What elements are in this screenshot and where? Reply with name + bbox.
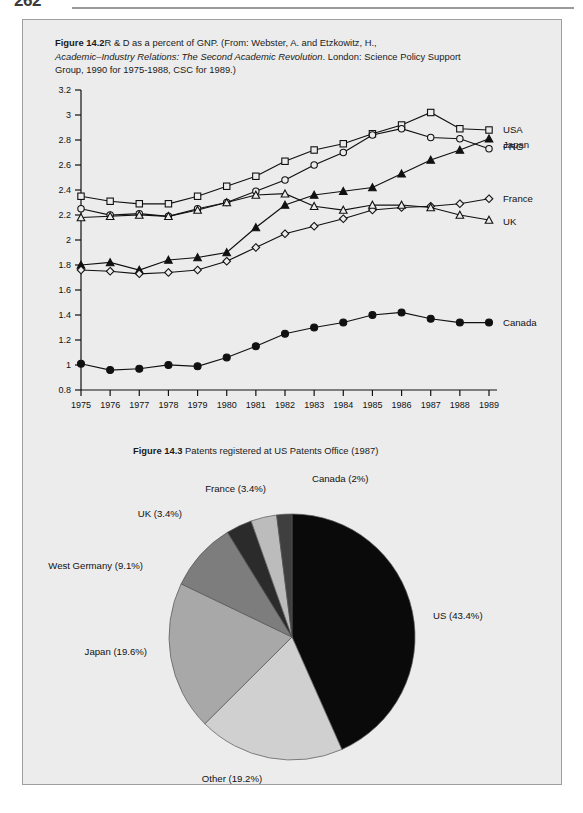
y-axis-tick-label: 1.4	[58, 310, 71, 320]
data-point-marker	[340, 149, 346, 155]
figure-14-2-caption-italic: Academic–Industry Relations: The Second …	[55, 51, 323, 62]
data-point-marker	[339, 215, 347, 223]
data-point-marker	[428, 134, 434, 140]
series-label-frg: FRG	[503, 141, 523, 152]
x-axis-tick-label: 1987	[421, 400, 441, 410]
pie-label-france: France (3.4%)	[205, 483, 266, 494]
pie-label-uk: UK (3.4%)	[138, 508, 182, 519]
x-axis-tick-label: 1975	[71, 400, 91, 410]
y-axis-tick-label: 1.2	[58, 335, 71, 345]
data-point-marker	[456, 146, 464, 153]
x-axis-tick-label: 1983	[304, 400, 324, 410]
y-axis-tick-label: 1.8	[58, 260, 71, 270]
data-point-marker	[136, 201, 142, 207]
data-point-marker	[486, 146, 492, 152]
figure-14-2-caption-tail: . London: Science Policy Support	[323, 51, 461, 62]
series-uk: UK	[77, 190, 517, 227]
data-point-marker	[340, 319, 347, 326]
data-point-marker	[311, 162, 317, 168]
figure-14-2-caption-line3: Group, 1990 for 1975-1988, CSC for 1989.…	[55, 64, 236, 75]
data-point-marker	[282, 177, 288, 183]
pie-label-canada: Canada (2%)	[312, 473, 369, 484]
series-label-uk: UK	[503, 216, 517, 227]
data-point-marker	[281, 230, 289, 238]
data-point-marker	[311, 324, 318, 331]
pie-label-west-germany: West Germany (9.1%)	[48, 560, 143, 571]
page-running-head: 262	[0, 0, 583, 14]
series-label-france: France	[503, 193, 533, 204]
figure-14-3-caption: Figure 14.3 Patents registered at US Pat…	[133, 444, 553, 458]
y-axis-tick-label: 0.8	[58, 385, 71, 395]
data-point-marker	[78, 360, 85, 367]
data-point-marker	[78, 193, 84, 199]
data-point-marker	[486, 319, 493, 326]
figure-panel: Figure 14.2R & D as a percent of GNP. (F…	[22, 19, 562, 785]
data-point-marker	[485, 135, 493, 142]
data-point-marker	[340, 141, 346, 147]
data-point-marker	[282, 158, 288, 164]
data-point-marker	[456, 200, 464, 208]
x-axis-tick-label: 1988	[450, 400, 470, 410]
data-point-marker	[252, 343, 259, 350]
data-point-marker	[253, 173, 259, 179]
data-point-marker	[194, 266, 202, 274]
figure-14-2-caption: Figure 14.2R & D as a percent of GNP. (F…	[55, 36, 535, 77]
figure-14-3-label: Figure 14.3	[133, 445, 183, 456]
figure-14-3-caption-text: Patents registered at US Patents Office …	[185, 445, 378, 456]
data-point-marker	[223, 257, 231, 265]
line-chart-rd-gnp: 0.811.21.41.61.822.22.42.62.833.21975197…	[23, 78, 563, 418]
data-point-marker	[107, 367, 114, 374]
series-label-canada: Canada	[503, 317, 537, 328]
series-usa: USA	[78, 109, 524, 207]
y-axis-tick-label: 2	[66, 235, 71, 245]
x-axis-tick-label: 1977	[129, 400, 149, 410]
data-point-marker	[136, 365, 143, 372]
data-point-marker	[282, 330, 289, 337]
data-point-marker	[223, 354, 230, 361]
pie-label-us: US (43.4%)	[433, 610, 483, 621]
data-point-marker	[398, 126, 404, 132]
y-axis-tick-label: 1.6	[58, 285, 71, 295]
series-label-usa: USA	[503, 124, 523, 135]
y-axis-tick-label: 2.4	[58, 185, 71, 195]
data-point-marker	[369, 312, 376, 319]
x-axis-tick-label: 1981	[246, 400, 266, 410]
x-axis-tick-label: 1986	[392, 400, 412, 410]
y-axis-tick-label: 2.6	[58, 160, 71, 170]
data-point-marker	[310, 222, 318, 230]
pie-label-other: Other (19.2%)	[202, 773, 262, 784]
data-point-marker	[398, 170, 406, 177]
data-point-marker	[165, 269, 173, 277]
x-axis-tick-label: 1982	[275, 400, 295, 410]
figure-14-2-label: Figure 14.2	[55, 37, 105, 48]
y-axis-tick-label: 3.2	[58, 85, 71, 95]
series-canada: Canada	[78, 309, 538, 374]
data-point-marker	[310, 202, 318, 209]
x-axis-tick-label: 1989	[479, 400, 499, 410]
data-point-marker	[165, 201, 171, 207]
pie-label-japan: Japan (19.6%)	[85, 646, 147, 657]
y-axis-tick-label: 3	[66, 110, 71, 120]
data-point-marker	[485, 195, 493, 203]
header-rule	[72, 7, 574, 9]
data-point-marker	[78, 206, 84, 212]
data-point-marker	[427, 315, 434, 322]
data-point-marker	[398, 309, 405, 316]
pie-slices	[169, 514, 415, 760]
data-point-marker	[194, 193, 200, 199]
data-point-marker	[311, 147, 317, 153]
data-point-marker	[369, 184, 377, 191]
x-axis-tick-label: 1979	[188, 400, 208, 410]
series-france: France	[77, 193, 533, 277]
x-axis-tick-label: 1978	[158, 400, 178, 410]
x-axis-tick-label: 1976	[100, 400, 120, 410]
data-point-marker	[107, 198, 113, 204]
pie-chart-svg: US (43.4%)Other (19.2%)Japan (19.6%)West…	[23, 468, 563, 778]
y-axis-tick-label: 1	[66, 360, 71, 370]
data-point-marker	[106, 267, 114, 275]
x-axis-tick-label: 1980	[217, 400, 237, 410]
data-point-marker	[165, 362, 172, 369]
data-point-marker	[369, 132, 375, 138]
data-point-marker	[194, 363, 201, 370]
data-point-marker	[457, 126, 463, 132]
